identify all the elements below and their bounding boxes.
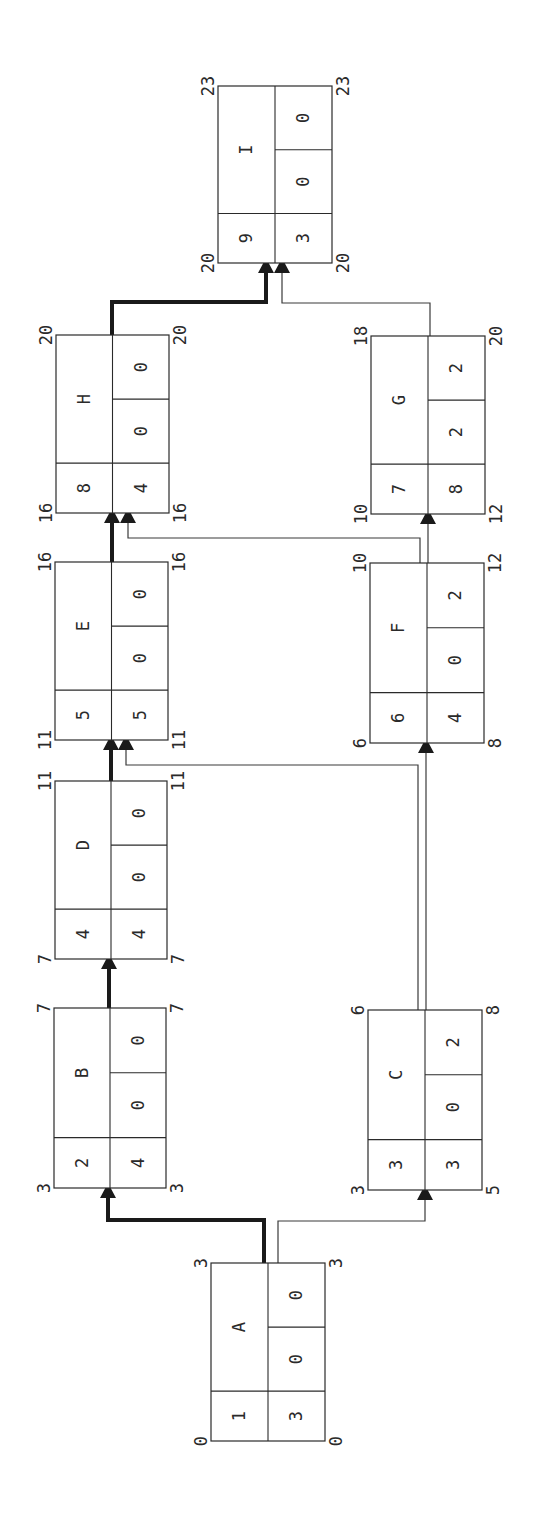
- activity-number: 3: [387, 1160, 407, 1170]
- early-start: 20: [198, 253, 218, 273]
- late-finish: 8: [483, 1005, 503, 1015]
- late-start: 3: [167, 1183, 187, 1193]
- early-start: 0: [191, 1436, 211, 1446]
- activity-node-h[interactable]: 8H40016201620: [36, 325, 190, 523]
- free-float: 0: [131, 362, 151, 372]
- late-start: 8: [485, 738, 505, 748]
- activity-node-e[interactable]: 5E50011161116: [35, 552, 189, 750]
- activity-duration: 3: [444, 1160, 464, 1170]
- activity-duration: 3: [294, 233, 314, 243]
- early-start: 11: [35, 730, 55, 750]
- total-float: 0: [128, 1100, 148, 1110]
- activity-number: 5: [73, 710, 93, 720]
- total-float: 0: [287, 1354, 307, 1364]
- link-e-h: [104, 508, 120, 562]
- activity-duration: 3: [287, 1411, 307, 1421]
- activity-node-c[interactable]: 3C3023658: [348, 1005, 503, 1195]
- late-start: 0: [326, 1436, 346, 1446]
- free-float: 0: [287, 1290, 307, 1300]
- activity-number: 9: [237, 233, 257, 243]
- free-float: 0: [128, 1035, 148, 1045]
- early-finish: 7: [34, 1003, 54, 1013]
- early-finish: 10: [350, 553, 370, 573]
- early-finish: 3: [191, 1258, 211, 1268]
- activity-number: 4: [73, 929, 93, 939]
- late-finish: 11: [168, 771, 188, 791]
- early-finish: 18: [351, 326, 371, 346]
- activity-name: H: [74, 394, 94, 404]
- late-start: 20: [333, 253, 353, 273]
- total-float: 0: [444, 1102, 464, 1112]
- total-float: 0: [294, 176, 314, 186]
- link-h-i: [112, 258, 274, 335]
- late-start: 7: [168, 954, 188, 964]
- early-finish: 6: [348, 1005, 368, 1015]
- activity-duration: 8: [447, 484, 467, 494]
- free-float: 2: [446, 590, 466, 600]
- early-finish: 20: [36, 325, 56, 345]
- activity-name: C: [387, 1070, 407, 1080]
- early-finish: 11: [35, 771, 55, 791]
- activity-duration: 5: [130, 710, 150, 720]
- free-float: 2: [447, 363, 467, 373]
- activity-node-g[interactable]: 7G82210181220: [351, 326, 506, 524]
- early-start: 3: [348, 1185, 368, 1195]
- activity-name: I: [237, 145, 257, 155]
- late-finish: 20: [170, 325, 190, 345]
- link-a-c: [278, 1185, 433, 1263]
- dependency-line: [278, 1198, 425, 1263]
- activity-name: F: [389, 623, 409, 633]
- network-diagram: 1A30003032B40037373C30236584D4007117115E…: [0, 0, 535, 1513]
- activity-node-a[interactable]: 1A3000303: [191, 1258, 346, 1446]
- critical-path-line: [108, 1196, 264, 1263]
- activity-name: G: [390, 395, 410, 405]
- link-f-h: [120, 508, 420, 563]
- nodes-layer: 1A30003032B40037373C30236584D4007117115E…: [34, 76, 506, 1446]
- activity-number: 1: [230, 1411, 250, 1421]
- early-finish: 16: [35, 552, 55, 572]
- link-c-f: [418, 738, 434, 1010]
- late-finish: 16: [169, 552, 189, 572]
- activity-node-b[interactable]: 2B4003737: [34, 1003, 187, 1193]
- early-start: 6: [350, 738, 370, 748]
- late-start: 5: [483, 1185, 503, 1195]
- activity-name: D: [73, 840, 93, 850]
- late-start: 16: [170, 503, 190, 523]
- activity-name: A: [230, 1322, 250, 1332]
- activity-number: 2: [72, 1158, 92, 1168]
- late-finish: 7: [167, 1003, 187, 1013]
- total-float: 0: [130, 653, 150, 663]
- late-finish: 12: [485, 553, 505, 573]
- activity-node-d[interactable]: 4D400711711: [35, 771, 188, 964]
- late-finish: 3: [326, 1258, 346, 1268]
- late-start: 11: [169, 730, 189, 750]
- link-f-g: [420, 509, 436, 563]
- activity-duration: 4: [129, 929, 149, 939]
- late-finish: 20: [486, 326, 506, 346]
- free-float: 2: [444, 1037, 464, 1047]
- early-start: 16: [36, 503, 56, 523]
- total-float: 2: [447, 427, 467, 437]
- activity-duration: 4: [128, 1158, 148, 1168]
- early-start: 10: [351, 504, 371, 524]
- late-finish: 23: [333, 76, 353, 96]
- activity-number: 7: [390, 484, 410, 494]
- activity-duration: 4: [131, 483, 151, 493]
- activity-node-i[interactable]: 9I30020232023: [198, 76, 353, 273]
- link-b-d: [101, 954, 117, 1008]
- activity-duration: 4: [446, 713, 466, 723]
- free-float: 0: [294, 113, 314, 123]
- early-finish: 23: [198, 76, 218, 96]
- link-d-e: [103, 735, 119, 781]
- link-a-b: [100, 1183, 264, 1263]
- free-float: 0: [129, 808, 149, 818]
- activity-number: 6: [389, 713, 409, 723]
- total-float: 0: [446, 655, 466, 665]
- activity-name: B: [72, 1068, 92, 1078]
- activity-number: 8: [74, 483, 94, 493]
- activity-node-f[interactable]: 6F402610812: [350, 553, 505, 748]
- activity-name: E: [73, 621, 93, 631]
- late-start: 12: [486, 504, 506, 524]
- early-start: 7: [35, 954, 55, 964]
- free-float: 0: [130, 589, 150, 599]
